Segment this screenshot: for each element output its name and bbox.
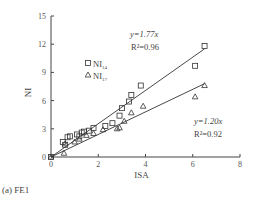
legend-label: NI17	[93, 71, 107, 82]
x-tick-label: 4	[144, 160, 148, 169]
y-tick-label: 3	[42, 125, 46, 134]
scatter-chart: 0246803691215ISANI NI14NI17 y=1.77xR²=0.…	[0, 0, 253, 185]
square-marker	[110, 121, 115, 126]
y-tick-label: 6	[42, 97, 46, 106]
legend: NI14NI17	[85, 59, 107, 82]
triangle-marker	[140, 103, 146, 108]
fit-line	[51, 84, 205, 157]
triangle-marker	[61, 150, 67, 155]
x-axis-label: ISA	[134, 170, 149, 180]
fit-r2-ni17: R²=0.92	[194, 129, 222, 139]
legend-label: NI14	[93, 59, 107, 70]
square-marker	[193, 63, 198, 68]
square-marker	[202, 44, 207, 49]
y-tick-label: 15	[38, 12, 46, 21]
x-tick-label: 0	[49, 160, 53, 169]
y-tick-label: 12	[38, 40, 46, 49]
square-marker	[129, 92, 134, 97]
fit-equation-ni17: y=1.20x	[193, 116, 222, 126]
legend-triangle-icon	[85, 72, 91, 77]
fit-r2-ni14: R²=0.96	[131, 42, 159, 52]
triangle-marker	[192, 94, 198, 99]
x-tick-label: 2	[96, 160, 100, 169]
square-marker	[117, 113, 122, 118]
x-tick-label: 6	[191, 160, 195, 169]
square-marker	[138, 83, 143, 88]
y-axis-label: NI	[23, 88, 33, 98]
legend-square-icon	[86, 61, 91, 66]
x-tick-label: 8	[238, 160, 242, 169]
triangle-marker	[100, 127, 106, 132]
y-tick-label: 0	[42, 153, 46, 162]
fit-equation-ni14: y=1.77x	[129, 29, 158, 39]
y-tick-label: 9	[42, 68, 46, 77]
figure-caption: (a) FE1	[2, 185, 29, 195]
triangle-marker	[129, 110, 135, 115]
